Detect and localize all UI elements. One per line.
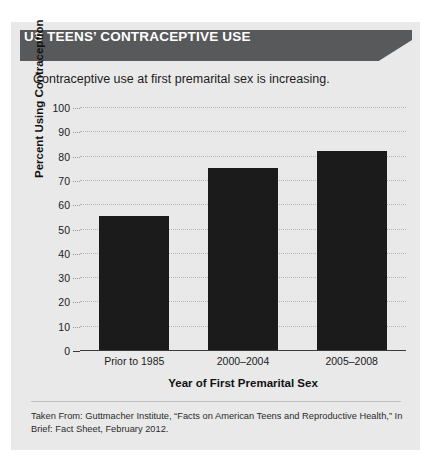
y-axis-tick-label: 30: [58, 272, 70, 284]
footer-divider: [31, 401, 401, 402]
plot-area: 1009080706050403020100: [80, 107, 406, 350]
x-axis-category-labels: Prior to 19852000–20042005–2008: [80, 355, 406, 371]
y-axis-tick: [73, 108, 80, 109]
chart-panel: US TEENS’ CONTRACEPTIVE USE Contraceptiv…: [11, 22, 420, 450]
y-axis-tick: [73, 254, 80, 255]
x-axis-category-label: Prior to 1985: [104, 355, 164, 367]
y-axis-tick: [73, 327, 80, 328]
bar-series: [80, 107, 406, 350]
y-axis-tick-label: 70: [58, 175, 70, 187]
page-title: US TEENS’ CONTRACEPTIVE USE: [24, 29, 251, 44]
x-axis-line: 0: [80, 350, 406, 351]
y-axis-tick: [73, 157, 80, 158]
y-axis-tick-label: 50: [58, 224, 70, 236]
x-axis-category-label: 2000–2004: [217, 355, 270, 367]
source-note: Taken From: Guttmacher Institute, “Facts…: [31, 410, 403, 437]
y-axis-tick: [73, 181, 80, 182]
x-axis-category-label: 2005–2008: [325, 355, 378, 367]
y-axis-tick-label: 20: [58, 296, 70, 308]
y-axis-tick: [73, 132, 80, 133]
chart-subtitle: Contraceptive use at first premarital se…: [33, 72, 330, 86]
y-axis-tick-label: 10: [58, 321, 70, 333]
y-axis-tick-label: 60: [58, 199, 70, 211]
y-axis-tick: [73, 351, 80, 352]
y-axis-tick-label: 40: [58, 248, 70, 260]
bar: [317, 151, 387, 350]
y-axis-tick-label: 80: [58, 151, 70, 163]
y-axis-tick: [73, 230, 80, 231]
x-axis-title: Year of First Premarital Sex: [80, 377, 406, 389]
y-axis-tick: [73, 278, 80, 279]
y-axis-tick-label: 90: [58, 126, 70, 138]
y-axis-tick-label: 100: [52, 102, 70, 114]
y-axis-tick: [73, 205, 80, 206]
bar: [208, 168, 278, 350]
y-axis-tick: [73, 302, 80, 303]
y-axis-tick-label: 0: [64, 345, 70, 357]
y-axis-title: Percent Using Contraception: [33, 162, 45, 178]
bar: [99, 216, 169, 350]
